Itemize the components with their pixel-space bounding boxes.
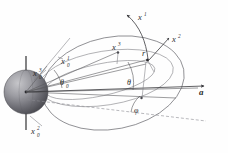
x3-orbit-base: x [111,42,116,52]
label-acceleration-vector: a [199,87,204,97]
label-radius-vector: r [142,48,146,58]
x1-body-sup: 1 [67,55,70,61]
x3-axis-stub [148,61,154,72]
x3-body-sup: 3 [39,67,42,73]
theta-label: θ [127,78,131,87]
label-x1-orbit-normal: x 1 [137,11,147,22]
theta-zero-sub: 0 [66,83,69,89]
radius-vector-label: r [142,48,146,58]
radius-vector-line [26,60,146,92]
x2-body-sub: 0 [37,132,40,138]
phi-foot-marker [140,97,142,99]
ray-phi-foot [26,92,176,98]
x3-body-base: x [32,68,37,78]
x1-orbit-normal-base: x [137,12,142,22]
node-projection-tick [117,53,118,64]
x2-body-axis-line [30,116,42,126]
x2-body-base: x [30,126,35,136]
x3-orbit-sup: 3 [118,41,121,47]
label-x2-orbit: x 2 [171,33,181,44]
phi-label: φ [134,106,139,115]
x1-body-axis-line [40,38,70,74]
dashed-reference-line [22,99,206,121]
satellite-projection-drop [142,62,146,98]
satellite-position-marker [146,59,149,62]
a-vector-label: a [199,87,204,97]
x1-orbit-normal-sup: 1 [144,11,147,17]
x2-axis-arrow [149,38,169,60]
x2-orbit-base: x [171,34,176,44]
a-vector-shaft [26,86,204,92]
x3-body-sub: 0 [39,74,42,80]
x2-orbit-sup: 2 [178,33,181,39]
acceleration-vector [26,86,204,92]
x1-body-sub: 0 [67,62,70,68]
label-phi: φ [134,106,139,115]
label-theta-zero: θ 0 [60,78,69,89]
x2-body-sup: 2 [37,125,40,131]
orbital-geometry-figure: x 1 x 2 x 3 r a x 1 0 x 3 [0,0,228,153]
x1-body-base: x [60,56,65,66]
node-marker [117,51,119,53]
theta-zero-base: θ [60,78,64,87]
label-x2-body-lower: x 2 0 [30,125,40,138]
label-x3-orbit: x 3 [111,41,121,52]
label-theta: θ [127,78,131,87]
figure-canvas: x 1 x 2 x 3 r a x 1 0 x 3 [0,0,228,153]
